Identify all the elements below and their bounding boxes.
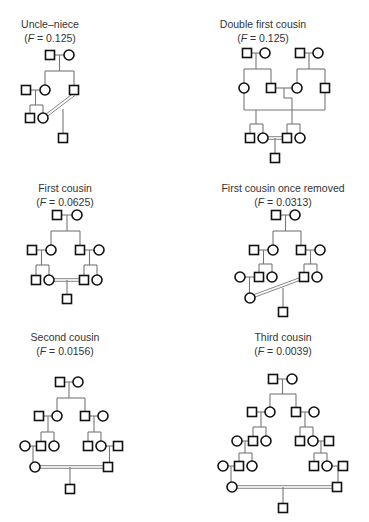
male-square-icon [300,273,309,282]
female-circle-icon [247,461,257,471]
coef-symbol: F [258,196,264,208]
panel-coef-second-cousin: (F = 0.0156) [36,345,94,357]
female-circle-icon [218,461,228,471]
female-circle-icon [265,407,275,417]
male-square-icon [32,276,41,285]
female-circle-icon [261,436,271,446]
male-square-icon [35,412,44,421]
pedigree-first-cousin [28,210,105,304]
coef-symbol: F [40,345,46,357]
pedigree-figure: Uncle–niece (F = 0.125) Double first cou… [0,0,369,522]
male-square-icon [59,134,68,143]
male-square-icon [248,408,257,417]
panel-coef-uncle-niece: (F = 0.125) [24,32,76,44]
male-square-icon [235,462,244,471]
female-circle-icon [232,436,242,446]
male-square-icon [63,295,72,304]
male-square-icon [22,86,31,95]
coef-symbol: F [258,345,264,357]
male-square-icon [255,273,264,282]
female-circle-icon [227,482,237,492]
pedigree-second-cousin [20,377,123,494]
male-square-icon [80,276,89,285]
female-circle-icon [44,275,54,285]
female-circle-icon [94,245,104,255]
male-square-icon [321,84,330,93]
male-square-icon [296,437,305,446]
male-square-icon [292,408,301,417]
female-circle-icon [235,272,245,282]
male-square-icon [310,462,319,471]
female-circle-icon [73,377,83,387]
panel-title-second-cousin: Second cousin [31,331,100,343]
pedigree-uncle-niece [22,50,79,143]
male-square-icon [84,442,93,451]
female-circle-icon [292,83,302,93]
coef-value: 0.0313 [276,196,308,208]
panel-coef-first-cousin-once-removed: (F = 0.0313) [254,196,312,208]
coef-value: 0.0156 [58,345,90,357]
panel-title-uncle-niece: Uncle–niece [21,18,79,30]
male-square-icon [243,49,252,58]
panel-coef-double-first-cousin: (F = 0.125) [237,32,289,44]
male-square-icon [53,211,62,220]
female-circle-icon [20,441,30,451]
female-circle-icon [38,113,48,123]
male-square-icon [269,375,278,384]
female-circle-icon [295,133,305,143]
female-circle-icon [52,411,62,421]
pedigree-first-cousin-once-removed [235,210,325,317]
consanguineous-mating-line [254,280,300,297]
female-circle-icon [72,210,82,220]
male-square-icon [37,442,46,451]
male-square-icon [114,442,123,451]
female-circle-icon [49,441,59,451]
coef-symbol: F [40,196,46,208]
female-circle-icon [290,210,300,220]
panel-title-third-cousin: Third cousin [254,331,311,343]
female-circle-icon [92,275,102,285]
male-square-icon [246,134,255,143]
coef-value: 0.0625 [58,196,90,208]
female-circle-icon [98,411,108,421]
male-square-icon [26,114,35,123]
male-square-icon [76,246,85,255]
male-square-icon [104,463,113,472]
female-circle-icon [267,272,277,282]
female-circle-icon [239,83,249,93]
male-square-icon [279,308,288,317]
male-square-icon [325,437,334,446]
female-circle-icon [260,48,270,58]
coef-value: 0.0039 [276,345,308,357]
female-circle-icon [40,85,50,95]
consanguineous-mating-line [46,93,73,114]
pedigree-third-cousin [218,374,348,513]
female-circle-icon [322,461,332,471]
female-circle-icon [258,133,268,143]
male-square-icon [81,412,90,421]
male-square-icon [267,84,276,93]
female-circle-icon [268,245,278,255]
male-square-icon [250,246,259,255]
male-square-icon [339,462,348,471]
male-square-icon [46,51,55,60]
female-circle-icon [287,374,297,384]
female-circle-icon [245,293,255,303]
panel-coef-third-cousin: (F = 0.0039) [254,345,312,357]
male-square-icon [66,485,75,494]
female-circle-icon [64,50,74,60]
male-square-icon [70,86,79,95]
female-circle-icon [315,245,325,255]
pedigree-diagrams [0,0,369,522]
panel-title-first-cousin-once-removed: First cousin once removed [221,182,344,194]
male-square-icon [333,483,342,492]
coef-value: 0.125 [46,32,72,44]
female-circle-icon [313,48,323,58]
male-square-icon [297,246,306,255]
female-circle-icon [96,441,106,451]
panel-title-first-cousin: First cousin [38,182,92,194]
female-circle-icon [309,407,319,417]
male-square-icon [271,154,280,163]
male-square-icon [296,49,305,58]
female-circle-icon [46,245,56,255]
